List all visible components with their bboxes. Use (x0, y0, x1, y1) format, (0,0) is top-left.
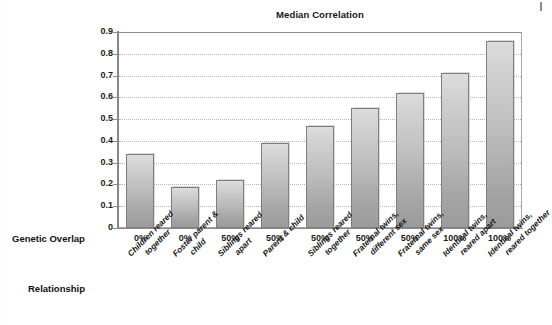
genetic-overlap-row-label: Genetic Overlap (12, 233, 85, 244)
y-tick-value: 0.5 (86, 113, 113, 123)
y-tick-label: 0.3 (86, 157, 113, 168)
y-tick-mark (113, 163, 117, 164)
y-tick-mark (113, 97, 117, 98)
y-tick-label: 0.8 (86, 48, 113, 59)
top-right-artifact (540, 2, 542, 11)
y-tick-label: 0 (86, 222, 113, 233)
y-tick-label: 0.1 (86, 200, 113, 211)
chart-title: Median Correlation (130, 9, 510, 20)
bar (351, 108, 379, 228)
bar (126, 154, 154, 228)
y-tick-label: 0.4 (86, 135, 113, 146)
bar (486, 41, 514, 228)
y-tick-label: 0.2 (86, 178, 113, 189)
y-axis-line (117, 31, 119, 229)
bar (441, 73, 469, 228)
y-tick-value: 0.9 (86, 26, 113, 36)
y-tick-mark (113, 184, 117, 185)
y-tick-mark (113, 119, 117, 120)
left-edge-artifact (0, 0, 1, 325)
y-tick-value: 0.2 (86, 178, 113, 188)
y-tick-value: 0.4 (86, 135, 113, 145)
y-tick-value: 0 (86, 222, 113, 232)
y-tick-value: 0.6 (86, 91, 113, 101)
y-tick-label: 0.6 (86, 91, 113, 102)
y-tick-label: 0.5 (86, 113, 113, 124)
y-tick-mark (113, 76, 117, 77)
relationship-row-label: Relationship (28, 283, 85, 294)
gridline (119, 54, 521, 55)
y-tick-mark (113, 228, 117, 229)
y-tick-value: 0.8 (86, 48, 113, 58)
y-tick-label: 0.7 (86, 70, 113, 81)
y-tick-value: 0.7 (86, 70, 113, 80)
y-tick-mark (113, 54, 117, 55)
y-tick-mark (113, 206, 117, 207)
y-tick-value: 0.3 (86, 157, 113, 167)
y-tick-mark (113, 32, 117, 33)
y-tick-mark (113, 141, 117, 142)
bar (261, 143, 289, 228)
y-tick-value: 0.1 (86, 200, 113, 210)
bar (396, 93, 424, 228)
bar (306, 126, 334, 228)
y-tick-label: 0.9 (86, 26, 113, 37)
